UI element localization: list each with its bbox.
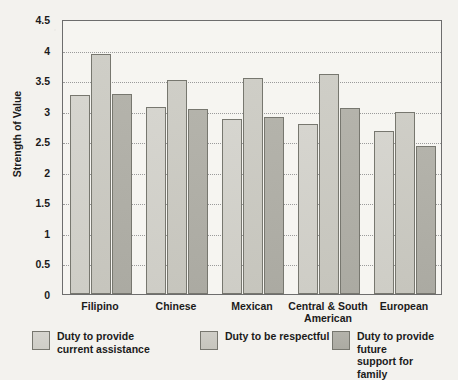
legend-label: Duty to provide future support for famil…: [357, 330, 442, 380]
bar: [374, 131, 395, 294]
y-axis-tick-label: 3: [44, 106, 50, 118]
bar: [70, 95, 91, 294]
y-axis-tick-label: 4: [44, 45, 50, 57]
legend-swatch-icon: [32, 331, 50, 350]
legend-swatch-icon: [200, 331, 218, 350]
y-axis-tick-label: 1.5: [35, 197, 50, 209]
bar: [264, 117, 285, 294]
bar: [167, 80, 188, 294]
plot-area: [62, 20, 442, 295]
x-axis-category-labels: FilipinoChineseMexicanCentral & South Am…: [62, 297, 442, 327]
y-axis-tick-label: 1: [44, 228, 50, 240]
bar: [243, 78, 264, 294]
bar: [319, 74, 340, 294]
legend-item: Duty to provide future support for famil…: [332, 330, 442, 380]
bar: [298, 124, 319, 294]
y-axis-tick-label: 4.5: [35, 14, 50, 26]
y-axis-tick-labels: 00.511.522.533.544.5: [14, 20, 54, 295]
legend-label: Duty to be respectful: [225, 330, 329, 343]
bar: [416, 146, 437, 294]
x-axis-label: European: [358, 300, 450, 312]
bar: [188, 109, 209, 294]
bar: [91, 54, 112, 294]
bar: [222, 119, 243, 294]
legend-item: Duty to provide current assistance: [32, 330, 150, 355]
y-axis-tick-label: 0: [44, 289, 50, 301]
legend-label: Duty to provide current assistance: [57, 330, 150, 355]
y-axis-tick-label: 3.5: [35, 75, 50, 87]
bar: [112, 94, 133, 294]
y-axis-tick-label: 2.5: [35, 136, 50, 148]
legend-swatch-icon: [332, 331, 350, 350]
legend-item: Duty to be respectful: [200, 330, 329, 350]
chart-legend: Duty to provide current assistanceDuty t…: [32, 330, 442, 374]
bar: [146, 107, 167, 294]
y-axis-tick-label: 2: [44, 167, 50, 179]
bar: [395, 112, 416, 294]
bar: [340, 108, 361, 294]
gridline: [63, 52, 441, 53]
y-axis-tick-label: 0.5: [35, 258, 50, 270]
